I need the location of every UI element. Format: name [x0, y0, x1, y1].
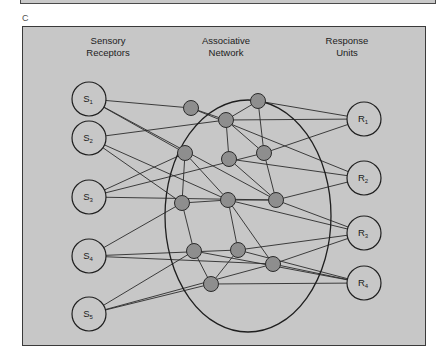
network-boundary-ellipse — [165, 100, 331, 332]
associative-node-a4 — [178, 146, 193, 161]
associative-node-a8 — [221, 193, 236, 208]
response-connection — [283, 203, 348, 227]
internal-connection — [232, 105, 251, 116]
sensory-connection — [105, 266, 265, 310]
internal-connection — [235, 164, 271, 195]
response-connection — [218, 283, 347, 284]
panel-letter: C — [22, 13, 29, 23]
associative-node-a10 — [187, 244, 202, 259]
internal-connection — [182, 160, 184, 195]
internal-connection — [259, 108, 263, 145]
response-connection — [236, 160, 347, 176]
response-connection — [280, 238, 348, 261]
adjacent-panel-edge — [20, 0, 436, 4]
associative-node-a2 — [219, 113, 234, 128]
response-connection — [233, 119, 347, 120]
internal-connection — [229, 207, 236, 242]
associative-node-a12 — [266, 257, 281, 272]
associative-node-a5 — [222, 152, 237, 167]
sensory-connection — [106, 100, 184, 107]
associative-node-a3 — [251, 94, 266, 109]
internal-connection — [227, 127, 229, 151]
associative-node-a1 — [184, 101, 199, 116]
associative-node-a11 — [231, 243, 246, 258]
figure-page: C Sensory Receptors Associative Network … — [0, 0, 441, 361]
associative-network-boundary — [165, 100, 331, 332]
sensory-connection — [104, 255, 188, 305]
response-connection — [283, 182, 347, 198]
response-connection — [280, 266, 347, 280]
associative-node-a6 — [257, 146, 272, 161]
sensory-connection — [106, 121, 219, 136]
network-diagram-panel: Sensory Receptors Associative Network Re… — [22, 26, 426, 346]
internal-connection — [216, 256, 234, 278]
internal-connection — [232, 125, 259, 148]
internal-connection — [184, 210, 192, 243]
internal-connection — [190, 159, 223, 195]
sensory-connection — [104, 107, 179, 149]
network-graph-svg: S1S2S3S4S5R1R2R3R4 — [23, 27, 427, 347]
response-connection — [265, 102, 347, 116]
associative-node-a9 — [269, 193, 284, 208]
associative-node-a7 — [175, 196, 190, 211]
associative-node-a13 — [204, 277, 219, 292]
internal-connection — [189, 200, 220, 202]
